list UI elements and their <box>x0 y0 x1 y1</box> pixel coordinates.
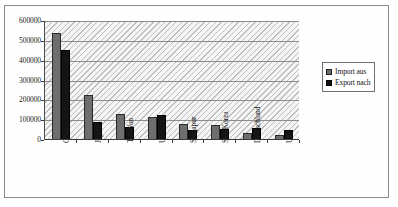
x-axis-category-text: Deutschland <box>254 107 262 143</box>
x-axis-category-text: Japan <box>95 126 103 143</box>
x-axis-tick-mark <box>299 140 300 143</box>
bar-chart-figure: 6000005000004000003000002000001000000 Ch… <box>0 0 398 207</box>
y-axis-tick-label: 600000 <box>1 17 41 25</box>
bar-import <box>116 114 125 139</box>
chart-legend: Import aus Export nach <box>322 62 375 92</box>
legend-label-export: Export nach <box>335 79 370 87</box>
legend-swatch-import-icon <box>326 69 332 75</box>
y-axis-tick-label: 200000 <box>1 96 41 104</box>
y-axis-tick-label: 0 <box>1 136 41 144</box>
x-axis-labels: ChinaJapanTai-WanUSASingapurSüd-KoreaDeu… <box>44 143 299 195</box>
bar-import <box>243 133 252 139</box>
bar-import <box>52 33 61 139</box>
legend-label-import: Import aus <box>335 68 366 76</box>
y-axis-tick-label: 100000 <box>1 116 41 124</box>
x-axis-category-text: USA <box>159 128 167 143</box>
bar-import <box>275 135 284 139</box>
y-axis-labels: 6000005000004000003000002000001000000 <box>0 0 41 207</box>
bar-import <box>148 117 157 139</box>
y-axis-tick-label: 500000 <box>1 37 41 45</box>
legend-swatch-export-icon <box>326 80 332 86</box>
gridline <box>45 21 299 22</box>
legend-item: Import aus <box>326 66 370 77</box>
x-axis-category-text: Süd-Korea <box>222 111 230 143</box>
gridline <box>45 61 299 62</box>
x-axis-category-text: Singapur <box>190 117 198 143</box>
gridline <box>45 41 299 42</box>
bar-import <box>179 124 188 139</box>
y-axis-tick-label: 400000 <box>1 57 41 65</box>
y-axis-tick-mark <box>41 140 44 141</box>
bar-import <box>84 95 93 139</box>
x-axis-category-text: Tai-Wan <box>127 118 135 143</box>
x-axis-category-text: UK <box>286 132 294 143</box>
bar-import <box>211 125 220 139</box>
y-axis-tick-label: 300000 <box>1 77 41 85</box>
x-axis-category-text: China <box>63 126 71 143</box>
legend-item: Export nach <box>326 77 370 88</box>
gridline <box>45 81 299 82</box>
